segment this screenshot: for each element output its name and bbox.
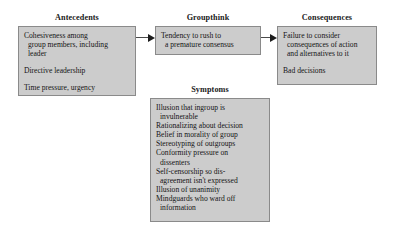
antecedents-entry-line: Time pressure, urgency xyxy=(24,83,95,92)
symptoms-entry-line: invulnerable xyxy=(156,112,265,121)
antecedents-entry-line: group members, including xyxy=(24,40,131,49)
consequences-entry-line: and alternatives to it xyxy=(283,49,372,58)
symptoms-entry-line: Illusion that ingroup is xyxy=(156,103,225,112)
groupthink-entry: Tendency to rush to a premature consensu… xyxy=(161,31,256,49)
consequences-entry: Bad decisions xyxy=(283,66,372,75)
node-symptoms-box: Illusion that ingroup is invulnerable Ra… xyxy=(150,98,270,222)
symptoms-entry-line: Self-censorship so dis- xyxy=(156,167,225,176)
symptoms-entry: Mindguards who ward off information xyxy=(156,194,265,212)
symptoms-entry-line: agreement isn't expressed xyxy=(156,176,265,185)
arrow-groupthink-to-consequences xyxy=(261,33,277,42)
antecedents-entry: Cohesiveness among group members, includ… xyxy=(24,31,131,58)
antecedents-entry-line: Cohesiveness among xyxy=(24,31,88,40)
symptoms-entry-line: Rationalizing about decision xyxy=(156,121,243,130)
arrow-head-icon xyxy=(270,34,277,42)
symptoms-entry: Self-censorship so dis- agreement isn't … xyxy=(156,167,265,185)
consequences-entry-line: Failure to consider xyxy=(283,31,340,40)
node-groupthink: Groupthink Tendency to rush to a prematu… xyxy=(155,13,261,55)
consequences-entry-line: Bad decisions xyxy=(283,66,325,75)
arrow-antecedents-to-groupthink xyxy=(136,33,155,42)
symptoms-entry: Rationalizing about decision xyxy=(156,121,265,130)
symptoms-entry: Belief in morality of group xyxy=(156,130,265,139)
node-consequences: Consequences Failure to consider consequ… xyxy=(277,13,377,85)
antecedents-entry: Time pressure, urgency xyxy=(24,83,131,92)
antecedents-entry-line: leader xyxy=(24,49,131,58)
symptoms-entry-line: Mindguards who ward off xyxy=(156,194,235,203)
antecedents-entry: Directive leadership xyxy=(24,66,131,75)
symptoms-entry-line: Conformity pressure on xyxy=(156,148,228,157)
node-antecedents-box: Cohesiveness among group members, includ… xyxy=(18,26,136,96)
symptoms-entry-line: dissenters xyxy=(156,158,265,167)
symptoms-entry: Conformity pressure on dissenters xyxy=(156,148,265,166)
arrow-head-icon xyxy=(148,34,155,42)
symptoms-entry-line: Stereotyping of outgroups xyxy=(156,139,235,148)
node-symptoms: Symptoms Illusion that ingroup is invuln… xyxy=(150,85,270,222)
groupthink-entry-line: Tendency to rush to xyxy=(161,31,221,40)
node-consequences-title: Consequences xyxy=(277,13,377,23)
consequences-entry-line: consequences of action xyxy=(283,40,372,49)
groupthink-diagram: Antecedents Cohesiveness among group mem… xyxy=(0,0,394,245)
node-consequences-box: Failure to consider consequences of acti… xyxy=(277,26,377,85)
node-groupthink-title: Groupthink xyxy=(155,13,261,23)
symptoms-entry: Illusion of unanimity xyxy=(156,185,265,194)
groupthink-entry-line: a premature consensus xyxy=(161,40,256,49)
node-groupthink-box: Tendency to rush to a premature consensu… xyxy=(155,26,261,55)
symptoms-entry-line: Belief in morality of group xyxy=(156,130,238,139)
symptoms-entry: Stereotyping of outgroups xyxy=(156,139,265,148)
node-antecedents-title: Antecedents xyxy=(18,13,136,23)
symptoms-entry-line: Illusion of unanimity xyxy=(156,185,220,194)
consequences-entry: Failure to consider consequences of acti… xyxy=(283,31,372,58)
node-antecedents: Antecedents Cohesiveness among group mem… xyxy=(18,13,136,96)
node-symptoms-title: Symptoms xyxy=(150,85,270,95)
symptoms-entry-line: information xyxy=(156,203,265,212)
symptoms-entry: Illusion that ingroup is invulnerable xyxy=(156,103,265,121)
antecedents-entry-line: Directive leadership xyxy=(24,66,85,75)
